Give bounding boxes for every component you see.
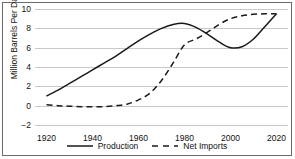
legend-item: Production [67, 141, 139, 151]
y-tick-label: 10 [22, 4, 31, 14]
y-tick-label: 6 [26, 43, 31, 53]
series-lines [35, 9, 288, 125]
plot-area: −20246810 192019401960198020002020 [35, 9, 288, 125]
y-tick-label: 8 [26, 23, 31, 33]
y-tick-label: −2 [21, 120, 31, 130]
y-tick-label: 4 [26, 62, 31, 72]
chart-legend: ProductionNet Imports [3, 141, 291, 151]
legend-swatch-dashed [152, 143, 178, 149]
y-axis-title: Million Barrels Per Day [9, 0, 19, 91]
legend-label: Production [98, 141, 139, 151]
legend-swatch-solid [67, 143, 93, 149]
y-tick-label: 0 [26, 101, 31, 111]
gridline [35, 125, 288, 126]
legend-label: Net Imports [183, 141, 227, 151]
chart-frame: Million Barrels Per Day −20246810 192019… [2, 2, 292, 156]
y-tick-label: 2 [26, 81, 31, 91]
series-line-production [47, 14, 277, 96]
legend-item: Net Imports [152, 141, 227, 151]
chart-figure: Million Barrels Per Day −20246810 192019… [0, 0, 295, 159]
